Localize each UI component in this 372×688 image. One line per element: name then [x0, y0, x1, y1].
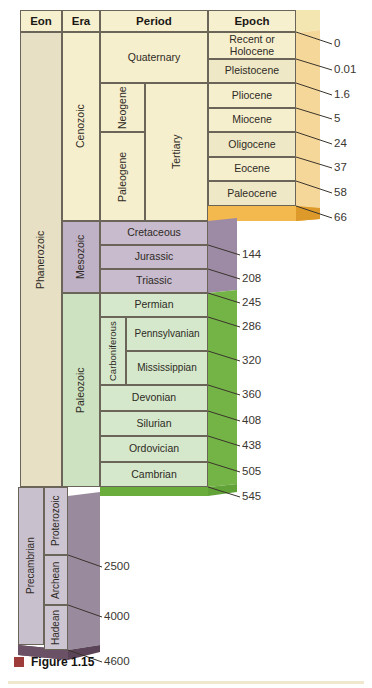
age-label-1-6: 1.6: [334, 89, 350, 101]
age-label-5: 5: [334, 113, 340, 125]
age-label-2500: 2500: [104, 561, 130, 573]
age-label-66: 66: [334, 212, 347, 224]
age-label-505: 505: [242, 466, 261, 478]
figure-caption: Figure 1.15: [14, 655, 94, 669]
age-label-320: 320: [242, 355, 261, 367]
caption-rule: [8, 681, 364, 684]
age-label-208: 208: [242, 273, 261, 285]
age-label-360: 360: [242, 389, 261, 401]
age-label-58: 58: [334, 187, 347, 199]
figure-caption-text: Figure 1.15: [31, 655, 94, 669]
age-label-408: 408: [242, 415, 261, 427]
caption-bullet-icon: [14, 657, 24, 667]
age-label-0-01: 0.01: [334, 64, 356, 76]
age-label-4600: 4600: [104, 656, 130, 668]
age-label-37: 37: [334, 162, 347, 174]
age-label-4000: 4000: [104, 611, 130, 623]
age-label-0: 0: [334, 38, 340, 50]
age-leader-lines: [0, 0, 372, 688]
geologic-time-scale-figure: Eon Era Period Epoch Phanerozoic Precamb…: [0, 0, 372, 688]
age-label-545: 545: [242, 491, 261, 503]
age-label-144: 144: [242, 249, 261, 261]
age-label-286: 286: [242, 321, 261, 333]
age-label-438: 438: [242, 440, 261, 452]
age-label-245: 245: [242, 297, 261, 309]
age-label-24: 24: [334, 138, 347, 150]
